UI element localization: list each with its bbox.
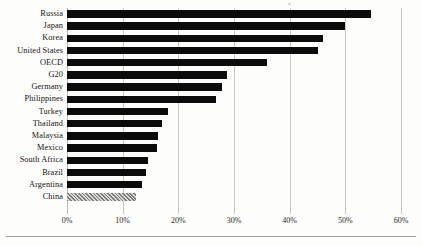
category-label-japan: Japan bbox=[0, 20, 63, 32]
x-tick-label-20: 20% bbox=[171, 216, 186, 225]
bar-row bbox=[67, 167, 401, 179]
category-label-brazil: Brazil bbox=[0, 167, 63, 179]
bar-turkey bbox=[67, 108, 168, 115]
bar-row bbox=[67, 154, 401, 166]
category-label-south-africa: South Africa bbox=[0, 154, 63, 166]
x-tick-label-50: 50% bbox=[338, 216, 353, 225]
category-label-argentina: Argentina bbox=[0, 179, 63, 191]
bar-argentina bbox=[67, 181, 142, 188]
bar-korea bbox=[67, 35, 323, 42]
footer-divider bbox=[6, 236, 416, 237]
bar-chart: RussiaJapanKoreaUnited StatesOECDG20Germ… bbox=[0, 0, 422, 246]
category-label-malaysia: Malaysia bbox=[0, 130, 63, 142]
x-axis-tick-labels: 0%10%20%30%40%50%60% bbox=[67, 216, 401, 230]
bar-row bbox=[67, 106, 401, 118]
bar-row bbox=[67, 179, 401, 191]
bar-south-africa bbox=[67, 157, 148, 164]
bar-row bbox=[67, 69, 401, 81]
bar-row bbox=[67, 142, 401, 154]
bar-germany bbox=[67, 83, 222, 90]
scan-artifact-speck bbox=[288, 3, 291, 5]
plot-area bbox=[67, 8, 401, 214]
bar-row bbox=[67, 118, 401, 130]
bar-united-states bbox=[67, 47, 318, 54]
bar-brazil bbox=[67, 169, 146, 176]
category-label-china: China bbox=[0, 191, 63, 203]
bar-philippines bbox=[67, 96, 216, 103]
category-label-philippines: Philippines bbox=[0, 93, 63, 105]
category-label-united-states: United States bbox=[0, 45, 63, 57]
bar-g20 bbox=[67, 71, 227, 78]
bar-series bbox=[67, 8, 401, 214]
category-label-russia: Russia bbox=[0, 8, 63, 20]
gridline-60 bbox=[401, 8, 402, 214]
x-tick-label-60: 60% bbox=[394, 216, 409, 225]
x-tick-label-10: 10% bbox=[115, 216, 130, 225]
x-tick-label-30: 30% bbox=[227, 216, 242, 225]
category-label-oecd: OECD bbox=[0, 57, 63, 69]
bar-mexico bbox=[67, 144, 157, 151]
bar-row bbox=[67, 81, 401, 93]
bar-malaysia bbox=[67, 132, 158, 139]
bar-row bbox=[67, 20, 401, 32]
bar-row bbox=[67, 32, 401, 44]
x-tick-label-40: 40% bbox=[282, 216, 297, 225]
bar-row bbox=[67, 57, 401, 69]
category-label-thailand: Thailand bbox=[0, 118, 63, 130]
bar-row bbox=[67, 45, 401, 57]
bar-russia bbox=[67, 10, 371, 17]
category-label-mexico: Mexico bbox=[0, 142, 63, 154]
bar-china bbox=[67, 193, 136, 200]
bar-japan bbox=[67, 22, 345, 29]
bar-row bbox=[67, 130, 401, 142]
category-label-germany: Germany bbox=[0, 81, 63, 93]
bar-row bbox=[67, 191, 401, 203]
bar-oecd bbox=[67, 59, 267, 66]
category-label-turkey: Turkey bbox=[0, 106, 63, 118]
x-tick-label-0: 0% bbox=[62, 216, 73, 225]
bar-row bbox=[67, 93, 401, 105]
category-axis-labels: RussiaJapanKoreaUnited StatesOECDG20Germ… bbox=[0, 8, 63, 214]
category-label-g20: G20 bbox=[0, 69, 63, 81]
bar-thailand bbox=[67, 120, 162, 127]
category-label-korea: Korea bbox=[0, 32, 63, 44]
bar-row bbox=[67, 8, 401, 20]
